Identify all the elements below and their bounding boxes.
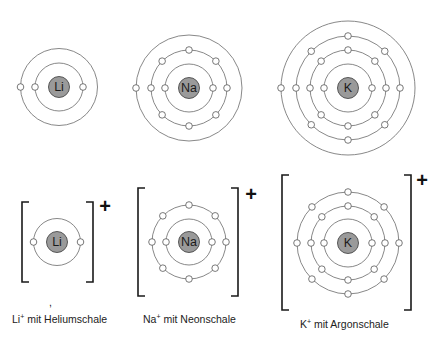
electron-icon xyxy=(345,137,352,144)
electron-icon xyxy=(308,121,315,128)
electron-icon xyxy=(17,84,24,91)
electron-icon xyxy=(209,239,216,246)
atom-ion-diagram: LiNaKLi+Na+K+ xyxy=(0,0,447,344)
charge-plus-icon: + xyxy=(416,169,428,191)
electron-icon xyxy=(382,240,389,247)
left-bracket xyxy=(22,202,29,282)
electron-icon xyxy=(160,213,167,220)
electron-icon xyxy=(345,277,352,284)
electron-icon xyxy=(309,276,316,283)
electron-icon xyxy=(159,58,166,65)
electron-icon xyxy=(345,291,352,298)
electron-icon xyxy=(32,84,39,91)
element-symbol: Na xyxy=(181,81,197,95)
electron-icon xyxy=(383,85,390,92)
li-ion: Li+ xyxy=(22,195,111,282)
electron-icon xyxy=(319,214,326,221)
electron-icon xyxy=(163,239,170,246)
element-symbol: K xyxy=(344,81,353,95)
electron-icon xyxy=(318,112,325,119)
na-atom: Na xyxy=(133,35,242,141)
electron-icon xyxy=(309,204,316,211)
k-atom: K xyxy=(278,21,415,155)
electron-icon xyxy=(369,240,376,247)
electron-icon xyxy=(133,85,140,92)
element-symbol: Na xyxy=(181,235,197,249)
electron-icon xyxy=(345,203,352,210)
electron-icon xyxy=(278,85,285,92)
electron-icon xyxy=(345,33,352,40)
electron-icon xyxy=(294,240,301,247)
electron-icon xyxy=(321,85,328,92)
electron-icon xyxy=(210,85,217,92)
element-symbol: Li xyxy=(52,235,62,249)
electron-icon xyxy=(381,48,388,55)
electron-icon xyxy=(212,265,219,272)
electron-icon xyxy=(159,112,166,119)
electron-icon xyxy=(213,58,220,65)
electron-icon xyxy=(345,189,352,196)
electron-icon xyxy=(381,204,388,211)
left-bracket xyxy=(282,175,289,310)
electron-icon xyxy=(224,85,231,92)
electron-icon xyxy=(345,123,352,130)
electron-icon xyxy=(381,121,388,128)
electron-icon xyxy=(308,240,315,247)
left-bracket xyxy=(138,188,145,296)
electron-icon xyxy=(319,266,326,273)
li-atom: Li xyxy=(17,49,97,126)
electron-icon xyxy=(345,47,352,54)
li-ion-label: Li+ mit Heliumschale xyxy=(12,313,107,325)
electron-icon xyxy=(307,85,314,92)
right-bracket xyxy=(404,175,411,310)
electron-icon xyxy=(308,48,315,55)
electron-icon xyxy=(149,239,156,246)
electron-icon xyxy=(186,47,193,54)
electron-icon xyxy=(223,239,230,246)
electron-icon xyxy=(372,112,379,119)
electron-icon xyxy=(321,240,328,247)
electron-icon xyxy=(213,112,220,119)
electron-icon xyxy=(160,265,167,272)
electron-icon xyxy=(80,84,87,91)
electron-icon xyxy=(162,85,169,92)
element-symbol: K xyxy=(344,236,353,250)
electron-icon xyxy=(186,276,193,283)
charge-plus-icon: + xyxy=(245,183,257,205)
electron-icon xyxy=(369,85,376,92)
na-ion: Na+ xyxy=(138,183,257,296)
right-bracket xyxy=(231,188,238,296)
stray-mark: , xyxy=(49,296,52,308)
electron-icon xyxy=(381,276,388,283)
electron-icon xyxy=(212,213,219,220)
electron-icon xyxy=(396,240,403,247)
k-ion: K+ xyxy=(282,169,428,310)
electron-icon xyxy=(293,85,300,92)
electron-icon xyxy=(371,266,378,273)
electron-icon xyxy=(371,214,378,221)
electron-icon xyxy=(148,85,155,92)
charge-plus-icon: + xyxy=(99,195,111,217)
electron-icon xyxy=(318,58,325,65)
k-ion-label: K+ mit Argonschale xyxy=(300,318,389,330)
na-ion-label: Na+ mit Neonschale xyxy=(143,313,236,325)
electron-icon xyxy=(77,239,84,246)
electron-icon xyxy=(372,58,379,65)
electron-icon xyxy=(186,202,193,209)
element-symbol: Li xyxy=(54,80,64,94)
electron-icon xyxy=(186,123,193,130)
electron-icon xyxy=(397,85,404,92)
electron-icon xyxy=(30,239,37,246)
right-bracket xyxy=(86,202,93,282)
